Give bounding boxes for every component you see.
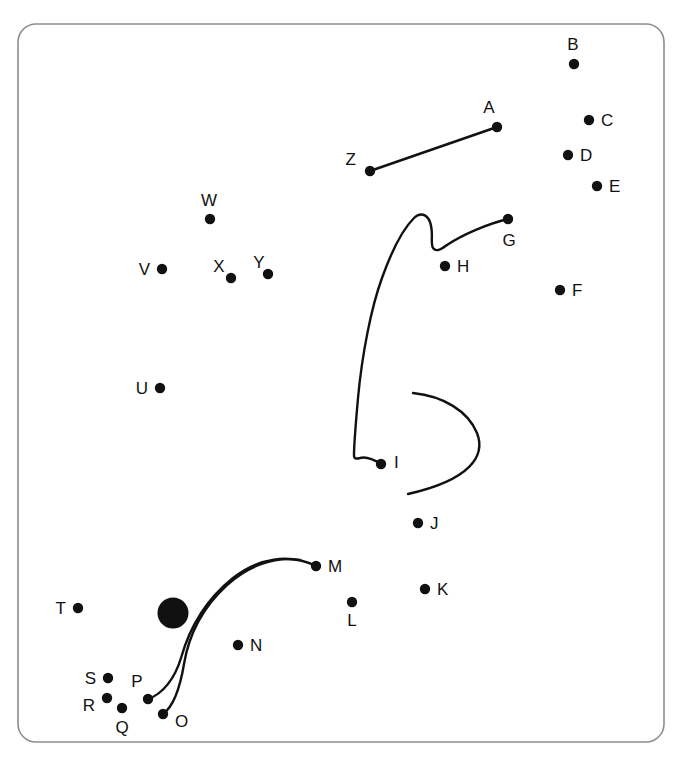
rounded-panel-border: [18, 24, 664, 742]
node-label-k: K: [437, 580, 449, 599]
node-dot-f[interactable]: [555, 285, 565, 295]
diagram-canvas: ABCDEFGHIJKLMNOPQRSTUVWXYZ: [0, 0, 682, 760]
node-label-h: H: [457, 257, 469, 276]
node-dot-g[interactable]: [503, 214, 513, 224]
node-dot-z[interactable]: [365, 166, 375, 176]
node-dot-t[interactable]: [73, 603, 83, 613]
node-label-w: W: [201, 191, 217, 210]
node-label-x: X: [213, 257, 224, 276]
node-dot-n[interactable]: [233, 640, 243, 650]
node-dot-e[interactable]: [592, 181, 602, 191]
node-label-f: F: [572, 281, 582, 300]
node-label-j: J: [430, 514, 439, 533]
node-dot-p[interactable]: [143, 694, 153, 704]
node-label-d: D: [580, 146, 592, 165]
large-filled-circle: [158, 598, 189, 629]
node-label-l: L: [347, 611, 356, 630]
node-label-v: V: [139, 260, 151, 279]
node-dot-c[interactable]: [584, 115, 594, 125]
node-dot-j[interactable]: [413, 518, 423, 528]
node-dot-h[interactable]: [440, 261, 450, 271]
node-label-s: S: [85, 669, 96, 688]
diagram-svg: ABCDEFGHIJKLMNOPQRSTUVWXYZ: [0, 0, 682, 760]
node-dot-q[interactable]: [117, 703, 127, 713]
node-dot-m[interactable]: [311, 561, 321, 571]
node-label-g: G: [502, 231, 515, 250]
node-dot-d[interactable]: [563, 150, 573, 160]
node-label-z: Z: [346, 150, 356, 169]
node-label-b: B: [567, 35, 578, 54]
node-label-o: O: [175, 712, 188, 731]
node-label-r: R: [83, 696, 95, 715]
node-dot-i[interactable]: [376, 459, 386, 469]
node-l[interactable]: L: [347, 597, 357, 630]
node-b[interactable]: B: [567, 35, 579, 69]
node-label-e: E: [609, 177, 620, 196]
node-dot-r[interactable]: [102, 693, 112, 703]
node-q[interactable]: Q: [115, 703, 128, 737]
node-dot-a[interactable]: [492, 122, 502, 132]
node-label-i: I: [394, 453, 399, 472]
node-label-t: T: [56, 599, 66, 618]
node-label-p: P: [131, 672, 142, 691]
node-dot-l[interactable]: [347, 597, 357, 607]
node-dot-o[interactable]: [158, 709, 168, 719]
node-label-a: A: [483, 98, 495, 117]
node-dot-s[interactable]: [103, 673, 113, 683]
node-dot-v[interactable]: [157, 264, 167, 274]
node-label-q: Q: [115, 718, 128, 737]
node-dot-k[interactable]: [420, 584, 430, 594]
node-label-m: M: [328, 557, 342, 576]
node-dot-w[interactable]: [205, 214, 215, 224]
node-dot-b[interactable]: [569, 59, 579, 69]
node-dot-u[interactable]: [155, 383, 165, 393]
node-dot-x[interactable]: [226, 273, 236, 283]
node-label-u: U: [136, 379, 148, 398]
node-label-n: N: [250, 636, 262, 655]
node-label-y: Y: [253, 253, 264, 272]
node-label-c: C: [601, 111, 613, 130]
